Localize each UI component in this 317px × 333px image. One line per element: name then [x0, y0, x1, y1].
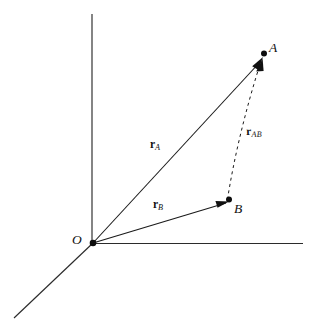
- point-label-b: B: [234, 202, 242, 216]
- point-o-dot: [90, 240, 97, 247]
- depth-axis: [14, 243, 93, 318]
- vector-diagram-figure: O A B rA rB rAB: [0, 0, 317, 333]
- vector-label-ra: rA: [150, 139, 160, 152]
- point-label-o: O: [72, 233, 82, 247]
- point-b-dot: [226, 197, 232, 203]
- vector-label-rb: rB: [153, 199, 163, 212]
- point-label-a: A: [269, 41, 277, 55]
- vector-label-rab-subscript: AB: [251, 130, 262, 139]
- vector-rb-arrowhead: [215, 201, 229, 208]
- vector-label-rab: rAB: [246, 125, 262, 139]
- point-a-dot: [261, 51, 267, 57]
- vector-label-ra-subscript: A: [155, 143, 160, 152]
- vector-label-rb-subscript: B: [158, 203, 163, 212]
- axes-group: [14, 14, 303, 318]
